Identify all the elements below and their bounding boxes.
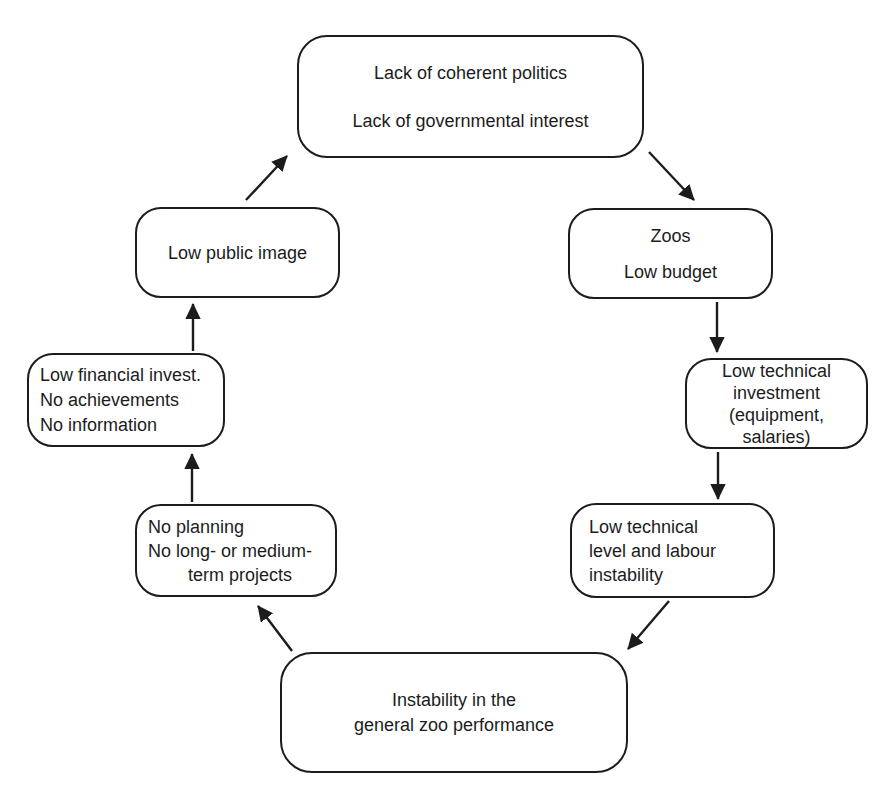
node-label: Low technical level and labour instabili… (589, 515, 716, 587)
node-low-public-image: Low public image (135, 207, 340, 298)
arrow-politics-to-zoos (649, 152, 694, 200)
node-low-financial-investment: Low financial invest. No achievements No… (27, 353, 225, 447)
node-label: Low financial invest. No achievements No… (40, 363, 201, 438)
node-label: No planning No long- or medium- term pro… (148, 515, 312, 587)
node-zoos-low-budget: Zoos Low budget (568, 208, 773, 299)
node-lack-of-coherent-politics: Lack of coherent politics Lack of govern… (297, 35, 644, 158)
node-label: Zoos Low budget (624, 218, 717, 290)
cycle-diagram: Lack of coherent politics Lack of govern… (0, 0, 889, 794)
arrow-performance-to-planning (258, 606, 292, 651)
node-low-technical-level: Low technical level and labour instabili… (570, 503, 775, 598)
arrow-level-to-performance (628, 601, 669, 649)
node-no-planning: No planning No long- or medium- term pro… (135, 504, 337, 597)
node-label: Low technical investment (equipment, sal… (722, 360, 831, 448)
node-label: Lack of coherent politics Lack of govern… (352, 61, 588, 133)
arrow-image-to-politics (246, 156, 287, 200)
node-low-technical-investment: Low technical investment (equipment, sal… (685, 358, 868, 449)
node-label: Instability in the general zoo performan… (354, 688, 554, 738)
node-instability-zoo-performance: Instability in the general zoo performan… (280, 652, 628, 773)
node-label: Low public image (168, 241, 307, 265)
